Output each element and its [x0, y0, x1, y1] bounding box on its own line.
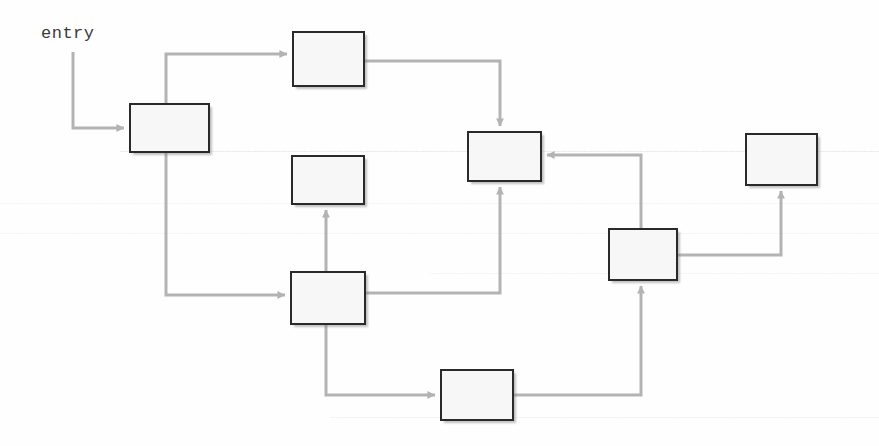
- node-n5[interactable]: [290, 271, 366, 325]
- node-n7[interactable]: [745, 133, 818, 186]
- edge-e9: [678, 191, 781, 255]
- edge-e2: [365, 61, 500, 126]
- node-n2[interactable]: [292, 31, 365, 87]
- edge-e0: [73, 52, 124, 128]
- edge-e5: [366, 187, 500, 293]
- edge-e7: [514, 286, 641, 395]
- node-n4[interactable]: [467, 131, 542, 182]
- node-n8[interactable]: [440, 369, 514, 421]
- edge-e1: [166, 54, 287, 103]
- node-n6[interactable]: [608, 228, 678, 281]
- edge-e8: [547, 155, 641, 228]
- entry-label: entry: [41, 24, 95, 43]
- node-n1[interactable]: [129, 103, 210, 153]
- node-n3[interactable]: [291, 155, 365, 205]
- edge-e6: [326, 325, 435, 395]
- edge-e3: [166, 153, 285, 295]
- diagram-canvas: entry: [0, 0, 879, 446]
